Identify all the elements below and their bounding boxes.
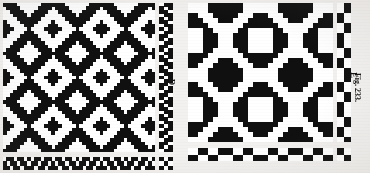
draft-e-threading-bar: [188, 148, 333, 161]
draft-d-tieup: [159, 157, 173, 170]
draft-e-drawdown: [188, 3, 333, 142]
draft-d-threading-bar: [3, 157, 155, 170]
draft-e-tieup: [337, 148, 351, 161]
figure-caption-text: Fig. 233.: [353, 72, 362, 101]
draft-d-drawdown: [3, 3, 155, 152]
draft-d-label: D: [162, 72, 182, 92]
figure-caption: Fig. 233.: [336, 78, 370, 96]
draft-d-tieup-canvas: [159, 157, 173, 170]
draft-e-tieup-canvas: [337, 148, 351, 161]
draft-e-threading-canvas: [188, 148, 333, 161]
draft-e-canvas: [188, 3, 333, 142]
figure-page: D E Fig. 233.: [0, 0, 370, 173]
draft-d-threading-canvas: [3, 157, 155, 170]
draft-d-label-text: D: [167, 79, 177, 86]
draft-d-canvas: [3, 3, 155, 152]
